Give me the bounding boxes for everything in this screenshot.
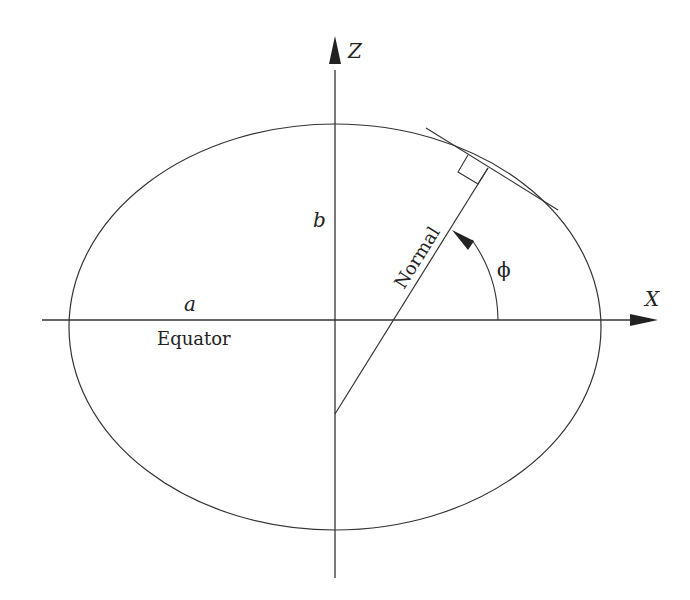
z-axis-label: Z [347, 39, 363, 63]
latitude-angle-arrowhead-icon [452, 230, 474, 250]
z-axis-arrowhead-icon [329, 36, 341, 64]
ellipsoid-diagram: Z X b a Equator ϕ Normal [0, 0, 690, 600]
right-angle-marker [458, 155, 488, 184]
x-axis-label: X [643, 287, 660, 311]
semi-major-label: a [184, 292, 196, 316]
normal-line [335, 168, 488, 414]
x-axis-arrowhead-icon [630, 314, 658, 326]
latitude-angle-label: ϕ [497, 258, 511, 282]
tangent-line [426, 128, 558, 210]
latitude-angle-arc [472, 240, 498, 320]
equator-label: Equator [157, 328, 231, 349]
semi-minor-label: b [313, 208, 326, 232]
